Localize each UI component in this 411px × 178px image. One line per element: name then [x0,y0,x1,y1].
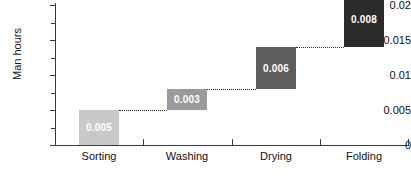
bar-value-label: 0.003 [174,94,200,105]
y-tick-minor [51,93,56,94]
x-tick [232,139,233,146]
x-category-label-drying: Drying [232,150,320,162]
waterfall-chart: Man hours 00.0050.010.0150.02 SortingWas… [0,0,411,178]
y-tick-minor [51,23,56,24]
bar-value-label: 0.006 [263,63,289,74]
x-tick [320,139,321,146]
y-tick-label: 0.005 [363,105,411,115]
y-axis-title: Man hours [11,9,23,99]
bar-value-label: 0.005 [86,122,112,133]
x-category-label-washing: Washing [143,150,231,162]
bar-value-label: 0.008 [351,14,377,25]
y-tick-major [50,5,56,6]
x-category-label-sorting: Sorting [55,150,143,162]
x-tick [55,139,56,146]
y-tick-major [50,75,56,76]
x-category-label-folding: Folding [320,150,408,162]
y-tick-label: 0.01 [363,70,411,80]
bar-sorting: 0.005 [79,110,119,145]
y-tick-minor [51,58,56,59]
connector-line [296,47,344,48]
y-tick-label: 0 [363,140,411,150]
y-tick-major [50,40,56,41]
bar-folding: 0.008 [344,0,384,47]
connector-line [119,110,167,111]
bar-drying: 0.006 [256,47,296,89]
x-tick [143,139,144,146]
y-tick-minor [51,128,56,129]
connector-line [207,89,256,90]
y-tick-major [50,110,56,111]
bar-washing: 0.003 [167,89,207,110]
x-tick [408,139,409,146]
